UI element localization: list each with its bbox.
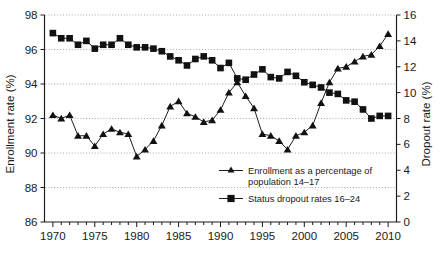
- data-point-marker: [133, 44, 140, 51]
- data-point-marker: [376, 113, 383, 120]
- data-point-marker: [91, 142, 99, 149]
- data-point-marker: [142, 44, 149, 51]
- y2-tick-label: 8: [404, 113, 410, 125]
- data-point-marker: [49, 111, 57, 118]
- y-tick-label: 94: [25, 78, 38, 90]
- y-tick-label: 98: [25, 9, 38, 21]
- data-point-marker: [75, 41, 82, 48]
- data-point-marker: [292, 132, 300, 139]
- y2-tick-label: 2: [404, 190, 410, 202]
- y-tick-label: 96: [25, 44, 38, 56]
- x-axis-tick-labels: 197019751980198519901995200020052010: [40, 230, 401, 242]
- data-point-marker: [385, 113, 392, 120]
- data-point-marker: [175, 98, 183, 105]
- data-point-marker: [108, 125, 116, 132]
- x-tick-label: 2000: [292, 230, 318, 242]
- data-point-marker: [276, 75, 283, 82]
- y-tick-label: 92: [25, 113, 38, 125]
- y-tick-label: 88: [25, 182, 38, 194]
- x-tick-label: 1980: [124, 230, 150, 242]
- data-point-marker: [99, 130, 107, 137]
- data-point-marker: [343, 97, 350, 104]
- x-tick-label: 2005: [333, 230, 359, 242]
- data-point-marker: [326, 79, 334, 86]
- data-point-marker: [368, 115, 375, 122]
- square-icon: [227, 195, 234, 202]
- x-tick-label: 1995: [250, 230, 276, 242]
- y2-tick-label: 10: [404, 87, 417, 99]
- legend-label-enrollment-line2: population 14–17: [248, 177, 319, 187]
- x-tick-label: 1970: [40, 230, 66, 242]
- data-point-marker: [384, 30, 392, 37]
- data-point-marker: [166, 103, 174, 110]
- legend-entry-dropout: Status dropout rates 16–24: [219, 194, 360, 204]
- data-point-marker: [50, 30, 57, 37]
- data-point-marker: [234, 75, 241, 82]
- data-point-marker: [208, 117, 216, 124]
- y2-tick-label: 14: [404, 35, 417, 47]
- data-point-marker: [301, 79, 308, 86]
- data-point-marker: [175, 57, 182, 64]
- data-point-marker: [116, 129, 124, 136]
- data-point-marker: [376, 42, 384, 49]
- y2-axis-tick-labels: 0246810121416: [404, 9, 417, 228]
- data-point-marker: [335, 91, 342, 98]
- data-point-marker: [91, 45, 98, 52]
- data-point-marker: [275, 137, 283, 144]
- figure-container: 86889092949698 0246810121416 19701975198…: [0, 0, 441, 257]
- data-point-marker: [351, 98, 358, 105]
- data-point-marker: [117, 35, 124, 42]
- data-point-marker: [217, 106, 225, 113]
- x-tick-label: 1985: [166, 230, 192, 242]
- data-point-marker: [192, 56, 199, 63]
- data-point-marker: [242, 92, 250, 99]
- y-tick-label: 90: [25, 147, 38, 159]
- x-tick-label: 1975: [82, 230, 108, 242]
- legend-label-dropout-line1: Status dropout rates 16–24: [248, 194, 360, 204]
- y2-tick-label: 6: [404, 138, 410, 150]
- y-tick-label: 86: [25, 216, 38, 228]
- y-axis-title: Enrollment rate (%): [4, 74, 16, 173]
- data-point-marker: [167, 53, 174, 60]
- chart-legend: Enrollment as a percentage of population…: [219, 166, 372, 204]
- y2-axis-title: Dropout rate (%): [420, 81, 432, 166]
- legend-entry-enrollment: Enrollment as a percentage of population…: [219, 166, 372, 187]
- data-point-marker: [66, 35, 73, 42]
- triangle-icon: [228, 167, 235, 173]
- data-point-marker: [217, 65, 224, 72]
- data-point-marker: [326, 89, 333, 96]
- data-point-marker: [159, 48, 166, 55]
- data-point-marker: [191, 113, 199, 120]
- data-point-marker: [108, 41, 115, 48]
- y2-tick-label: 0: [404, 216, 410, 228]
- y2-tick-label: 16: [404, 9, 417, 21]
- data-point-marker: [83, 38, 90, 45]
- data-point-marker: [125, 41, 132, 48]
- data-point-marker: [360, 106, 367, 113]
- x-tick-label: 1990: [208, 230, 234, 242]
- legend-label-enrollment-line1: Enrollment as a percentage of: [248, 166, 372, 176]
- y2-tick-label: 4: [404, 164, 411, 176]
- data-point-marker: [57, 115, 65, 122]
- data-point-marker: [293, 73, 300, 80]
- data-point-marker: [158, 122, 166, 129]
- data-point-marker: [242, 76, 249, 83]
- data-point-marker: [250, 105, 258, 112]
- data-point-marker: [66, 111, 74, 118]
- data-point-marker: [342, 63, 350, 70]
- y-axis-tick-labels: 86889092949698: [25, 9, 38, 228]
- data-point-marker: [309, 122, 317, 129]
- data-point-marker: [150, 137, 158, 144]
- dual-axis-line-chart: 86889092949698 0246810121416 19701975198…: [0, 0, 441, 257]
- data-point-marker: [258, 130, 266, 137]
- data-point-marker: [200, 53, 207, 60]
- data-point-marker: [351, 58, 359, 65]
- data-point-marker: [309, 82, 316, 89]
- data-point-marker: [150, 45, 157, 52]
- data-point-marker: [318, 84, 325, 91]
- x-tick-label: 2010: [375, 230, 401, 242]
- data-point-marker: [317, 99, 325, 106]
- data-point-marker: [251, 71, 258, 78]
- data-point-marker: [183, 110, 191, 117]
- data-point-marker: [267, 74, 274, 81]
